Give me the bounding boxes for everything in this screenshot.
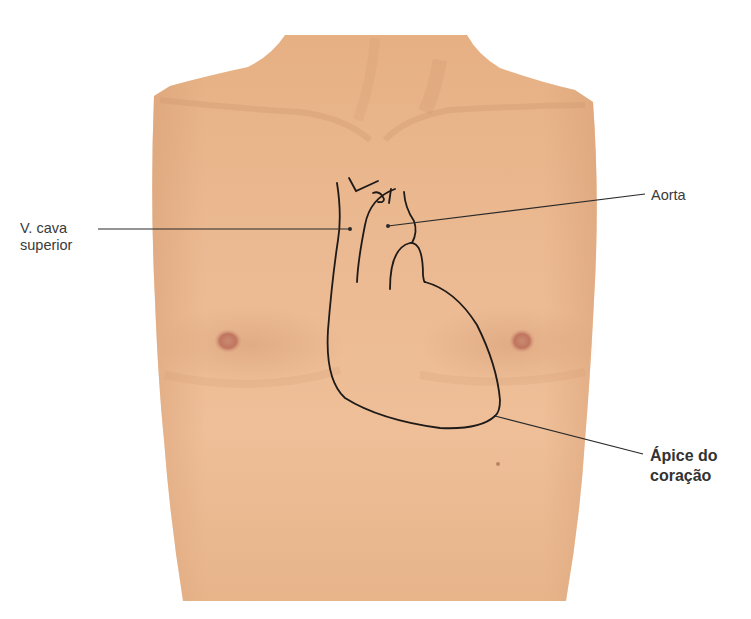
chest-heart-diagram (0, 0, 751, 619)
label-vena-cava-line2: superior (20, 237, 72, 254)
torso (152, 35, 600, 601)
label-apex-of-heart: Ápice do coração (650, 446, 718, 486)
label-aorta-text: Aorta (651, 187, 686, 204)
label-apex-line2: coração (650, 466, 718, 486)
nipple-right (509, 329, 535, 353)
label-vena-cava-line1: V. cava (20, 220, 72, 237)
label-aorta: Aorta (651, 187, 686, 204)
label-vena-cava-superior: V. cava superior (20, 220, 72, 254)
nipple-left (214, 329, 242, 353)
label-apex-line1: Ápice do (650, 446, 718, 466)
